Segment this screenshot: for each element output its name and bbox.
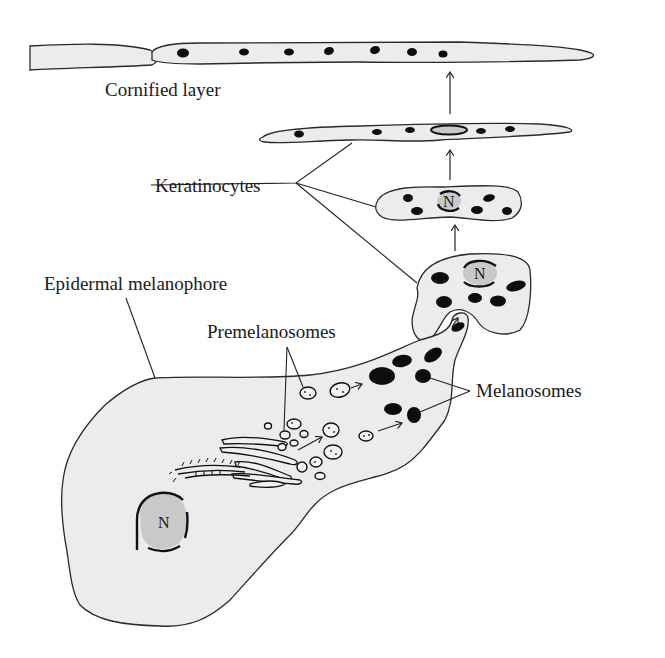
keratinocyte-middle: N: [376, 186, 522, 221]
keratinocyte-lower: N: [412, 254, 531, 341]
premelanosomes-label: Premelanosomes: [207, 321, 336, 342]
cornified-layer-label: Cornified layer: [105, 79, 221, 100]
keratinocytes-label: Keratinocytes: [155, 175, 261, 196]
epidermal-melanophore-label: Epidermal melanophore: [44, 273, 227, 294]
melanophore-diagram: Cornified layer N N: [0, 0, 665, 658]
keratinocyte-upper: [259, 123, 571, 143]
epidermal-melanophore: N: [62, 313, 469, 626]
melanosomes-label: Melanosomes: [476, 380, 582, 401]
melanophore-nucleus-label: N: [158, 514, 170, 531]
cornified-layer: [30, 42, 594, 70]
cornified-cell-left: [30, 44, 157, 70]
keratinocyte-lower-nucleus-label: N: [474, 265, 486, 282]
keratinocyte-middle-nucleus-label: N: [443, 193, 455, 210]
